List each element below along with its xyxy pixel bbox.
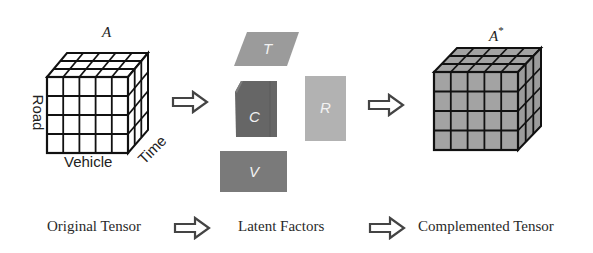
original-tensor-cube	[47, 53, 148, 153]
axis-label-vehicle: Vehicle	[64, 153, 112, 170]
arrow-right-icon	[175, 218, 209, 238]
complemented-symbol-superscript: *	[498, 24, 504, 36]
arrow-right-icon	[370, 218, 404, 238]
caption-original-tensor: Original Tensor	[47, 218, 141, 235]
complemented-symbol-base: A	[489, 28, 498, 44]
diagram-canvas	[0, 0, 593, 253]
complemented-tensor-cube	[434, 48, 541, 150]
factor-r-label: R	[320, 99, 331, 116]
arrow-right-icon	[173, 92, 207, 112]
factor-c-label: C	[249, 108, 260, 125]
axis-label-road: Road	[30, 93, 47, 133]
factor-t-label: T	[263, 40, 272, 57]
complemented-tensor-symbol: A*	[489, 24, 504, 45]
arrow-right-icon	[369, 95, 403, 115]
caption-latent-factors: Latent Factors	[238, 218, 324, 235]
original-tensor-symbol: A	[102, 24, 111, 41]
caption-complemented-tensor: Complemented Tensor	[418, 218, 554, 235]
factor-v-label: V	[249, 163, 259, 180]
